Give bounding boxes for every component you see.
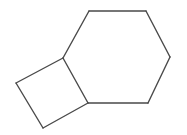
bond-c4-c5 [148, 57, 170, 103]
bond-c1-c2 [63, 11, 89, 58]
bond-c3-c4 [146, 11, 170, 57]
bond-c6-c1 [63, 58, 88, 103]
bond-c6-c7 [43, 103, 88, 128]
chemical-structure-diagram [0, 0, 187, 135]
bond-c8-c1 [16, 58, 63, 83]
structure-canvas [0, 0, 187, 135]
bond-layer [16, 11, 170, 128]
bond-c7-c8 [16, 83, 43, 128]
